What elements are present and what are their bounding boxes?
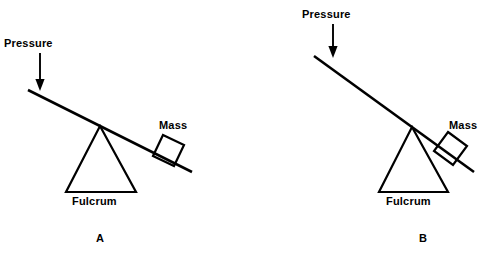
panel-b-graphics <box>314 24 474 192</box>
diagram-canvas <box>0 0 487 256</box>
pressure-arrow-a <box>35 53 44 91</box>
arrow-head-icon <box>35 79 44 91</box>
fulcrum-label-b: Fulcrum <box>386 196 431 207</box>
mass-label-b: Mass <box>449 120 477 131</box>
mass-label-a: Mass <box>159 120 187 131</box>
panel-letter-b: B <box>419 233 427 244</box>
fulcrum-triangle-b <box>379 127 448 192</box>
lever-beam-b <box>314 56 474 172</box>
pressure-arrow-b <box>328 24 337 58</box>
fulcrum-triangle-a <box>66 126 136 192</box>
pressure-label-b: Pressure <box>302 9 351 20</box>
fulcrum-label-a: Fulcrum <box>72 196 117 207</box>
lever-figure: Pressure Mass Fulcrum A Pressure Mass Fu… <box>0 0 487 256</box>
panel-letter-a: A <box>96 233 104 244</box>
lever-beam-a <box>28 90 192 172</box>
mass-box-b <box>434 132 467 165</box>
pressure-label-a: Pressure <box>4 38 53 49</box>
arrow-head-icon <box>328 46 337 58</box>
